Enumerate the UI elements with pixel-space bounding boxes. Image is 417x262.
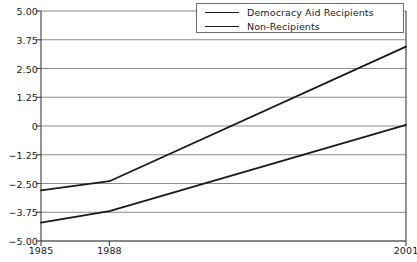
- legend-line-swatch-icon: [205, 12, 239, 13]
- legend-line-swatch-icon: [205, 26, 239, 27]
- legend-label: Democracy Aid Recipients: [247, 7, 374, 18]
- y-tick-label: 0: [32, 121, 38, 132]
- legend-label: Non-Recipients: [247, 21, 320, 32]
- chart-container: 5.003.752.501.250−1.25−2.50−3.75−5.00 19…: [0, 0, 417, 262]
- x-tick-label: 2001: [394, 245, 417, 256]
- x-tick-marks: [41, 241, 406, 246]
- legend-item-non-recipients: Non-Recipients: [205, 19, 320, 33]
- gridlines: [41, 11, 406, 241]
- legend: Democracy Aid Recipients Non-Recipients: [196, 3, 404, 33]
- y-tick-label: 3.75: [16, 34, 38, 45]
- y-tick-label: −2.50: [8, 178, 38, 189]
- plot-area: [0, 0, 417, 262]
- y-tick-label: −1.25: [8, 149, 38, 160]
- x-tick-label: 1985: [29, 245, 54, 256]
- y-tick-label: 2.50: [16, 63, 38, 74]
- y-tick-label: 1.25: [16, 92, 38, 103]
- y-tick-label: −3.75: [8, 207, 38, 218]
- legend-item-democracy-aid-recipients: Democracy Aid Recipients: [205, 5, 374, 19]
- data-series-lines: [41, 47, 406, 223]
- y-tick-label: 5.00: [16, 6, 38, 17]
- x-tick-label: 1988: [97, 245, 122, 256]
